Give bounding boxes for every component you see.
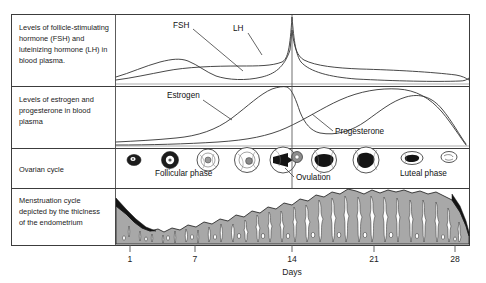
panel-3-label: Ovarian cycle xyxy=(19,165,64,174)
follicle-stage-9-corpus-albicans xyxy=(441,152,457,163)
tick-label-day-28: 28 xyxy=(450,254,460,264)
panel-1-label-line-2: hormone (FSH) and xyxy=(19,34,84,43)
follicle-stage-4-antral xyxy=(235,148,260,173)
panel-1-label-line-3: luteinizing hormone (LH) in xyxy=(19,45,107,54)
follicle-stage-1-primordial xyxy=(127,155,141,166)
x-axis-title: Days xyxy=(282,267,302,277)
panel-1-label-line-1: Levels of follicle-stimulating xyxy=(19,23,109,32)
follicle-stage-2-primary xyxy=(162,152,179,169)
luteal-phase-label: Luteal phase xyxy=(400,169,447,178)
progesterone-label: Progesterone xyxy=(335,127,385,136)
lh-label: LH xyxy=(233,24,244,33)
fsh-label: FSH xyxy=(173,21,189,30)
panel-1-label-line-4: blood plasma. xyxy=(19,56,65,65)
follicle-stage-3-secondary xyxy=(197,149,219,171)
tick-label-day-7: 7 xyxy=(193,254,198,264)
estrogen-label: Estrogen xyxy=(167,91,200,100)
panel-2-label-line-1: Levels of estrogen and xyxy=(19,95,94,104)
panel-2-label-line-2: progesterone in blood xyxy=(19,106,91,115)
panel-4-label-line-1: Menstruation cycle xyxy=(19,196,81,205)
tick-label-day-1: 1 xyxy=(128,254,133,264)
tick-label-day-21: 21 xyxy=(369,254,379,264)
ovulation-label: Ovulation xyxy=(296,173,331,182)
panel-4-label-line-2: depicted by the thiclness xyxy=(19,207,100,216)
panel-2-label-line-3: plasma xyxy=(19,117,44,126)
panel-4-label-line-3: of the endometrium xyxy=(19,218,83,227)
tick-label-day-14: 14 xyxy=(287,254,297,264)
follicular-phase-label: Follicular phase xyxy=(155,169,213,178)
follicle-stage-6-early-corpus-luteum xyxy=(312,148,337,173)
follicle-stage-8-regressing-corpus-luteum xyxy=(401,152,423,165)
follicle-stage-7-mature-corpus-luteum xyxy=(353,147,379,173)
menstrual-cycle-figure: Levels of follicle-stimulating hormone (… xyxy=(0,0,486,283)
